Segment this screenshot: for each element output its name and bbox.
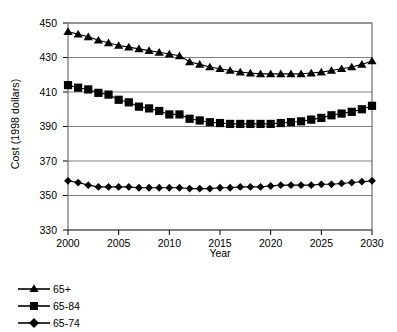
data-point-65-84 (277, 119, 285, 127)
legend-label-65-74: 65-74 (53, 316, 80, 330)
data-point-65-84 (135, 103, 143, 111)
y-tick-marks (63, 23, 68, 230)
data-point-65-74 (307, 181, 315, 189)
chart-legend: 65+ 65-84 65-74 (17, 281, 197, 332)
x-tick-marks (68, 230, 372, 235)
y-tick-label: 450 (39, 17, 57, 29)
data-point-65-74 (267, 182, 275, 190)
data-point-65-74 (368, 177, 376, 185)
data-point-65-74 (176, 184, 184, 192)
data-point-65-74 (186, 185, 194, 193)
data-point-65-84 (165, 110, 173, 118)
data-point-65-74 (236, 183, 244, 191)
y-tick-label: 370 (39, 155, 57, 167)
data-point-65-74 (287, 181, 295, 189)
data-point-65-84 (155, 107, 163, 115)
data-point-65-74 (226, 184, 234, 192)
y-tick-label: 350 (39, 189, 57, 201)
data-point-65-84 (186, 115, 194, 123)
data-point-65-84 (175, 110, 183, 118)
data-point-65-84 (236, 120, 244, 128)
data-point-65+ (94, 36, 103, 44)
data-point-65-74 (247, 183, 255, 191)
data-point-65-74 (125, 183, 133, 191)
legend-label-65plus: 65+ (53, 282, 71, 296)
data-point-65-84 (297, 117, 305, 125)
data-point-65-84 (94, 89, 102, 97)
y-axis-title: Cost (1998 dollars) (9, 79, 21, 170)
data-point-65+ (185, 58, 194, 66)
data-point-65-74 (135, 184, 143, 192)
data-point-65-74 (196, 185, 204, 193)
data-point-65+ (357, 60, 366, 68)
data-point-65-74 (74, 179, 82, 187)
y-tick-label: 330 (39, 224, 57, 236)
data-point-65-84 (317, 114, 325, 122)
plot-area: 330350370390410430450 200020052010201520… (0, 0, 397, 266)
gridlines (68, 23, 372, 196)
data-point-65-84 (287, 118, 295, 126)
data-point-65+ (63, 27, 72, 35)
data-point-65-84 (368, 102, 376, 110)
y-tick-labels: 330350370390410430450 (39, 17, 57, 236)
x-axis-title: Year (68, 247, 372, 259)
legend-item-65-74: 65-74 (17, 315, 197, 331)
data-point-65-84 (145, 104, 153, 112)
data-point-65-74 (338, 180, 346, 188)
data-point-65-74 (277, 181, 285, 189)
data-point-65-74 (155, 184, 163, 192)
data-point-65-74 (358, 178, 366, 186)
data-point-65-84 (256, 120, 264, 128)
legend-label-65-84: 65-84 (53, 299, 80, 313)
legend-key-triangle-icon (17, 282, 51, 296)
data-point-65-84 (104, 90, 112, 98)
data-point-65-84 (307, 116, 315, 124)
y-tick-label: 430 (39, 51, 57, 63)
data-point-65-84 (74, 84, 82, 92)
series-lines (68, 32, 372, 189)
y-tick-label: 410 (39, 86, 57, 98)
data-point-65-74 (165, 184, 173, 192)
series-markers (63, 27, 376, 192)
data-point-65-84 (267, 120, 275, 128)
data-point-65-84 (64, 81, 72, 89)
legend-item-65plus: 65+ (17, 281, 197, 297)
data-point-65-74 (64, 177, 72, 185)
data-point-65-74 (95, 183, 103, 191)
data-point-65-84 (216, 119, 224, 127)
data-point-65-84 (327, 111, 335, 119)
legend-key-square-icon (17, 299, 51, 313)
data-point-65-84 (246, 120, 254, 128)
data-point-65-74 (206, 185, 214, 193)
data-point-65-74 (115, 183, 123, 191)
y-tick-label: 390 (39, 120, 57, 132)
data-point-65-84 (358, 105, 366, 113)
data-point-65-74 (328, 180, 336, 188)
data-point-65-84 (348, 108, 356, 116)
data-point-65-74 (317, 180, 325, 188)
data-point-65-84 (226, 120, 234, 128)
legend-item-65-84: 65-84 (17, 298, 197, 314)
data-point-65-84 (338, 109, 346, 117)
line-chart-svg: 330350370390410430450 200020052010201520… (0, 0, 397, 266)
data-point-65-74 (297, 181, 305, 189)
data-point-65-84 (206, 118, 214, 126)
data-point-65-84 (196, 116, 204, 124)
data-point-65-74 (348, 179, 356, 187)
data-point-65-74 (216, 184, 224, 192)
data-point-65-74 (105, 183, 113, 191)
data-point-65-84 (125, 98, 133, 106)
data-point-65-84 (115, 96, 123, 104)
series-line-65-84 (68, 85, 372, 124)
legend-key-diamond-icon (17, 316, 51, 330)
data-point-65-84 (84, 85, 92, 93)
chart-figure: 330350370390410430450 200020052010201520… (0, 0, 397, 332)
data-point-65-74 (84, 181, 92, 189)
data-point-65-74 (257, 183, 265, 191)
y-axis-title-wrap: Cost (1998 dollars) (4, 44, 26, 204)
data-point-65-74 (145, 184, 153, 192)
